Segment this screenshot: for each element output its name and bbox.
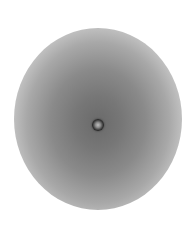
center-bead: [92, 119, 104, 131]
